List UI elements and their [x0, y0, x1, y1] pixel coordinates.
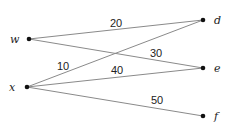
weight-w-d: 20 [110, 17, 122, 29]
weight-x-f: 50 [151, 94, 163, 106]
weight-w-e: 30 [150, 47, 162, 59]
node-d [201, 18, 206, 23]
node-label-f: f [213, 110, 220, 123]
node-w [27, 37, 32, 42]
weight-x-e: 40 [111, 64, 123, 76]
node-label-w: w [10, 33, 20, 46]
node-f [201, 114, 206, 119]
node-x [25, 85, 30, 90]
node-e [201, 66, 206, 71]
graph-diagram: 20 30 10 40 50 w x d e f [0, 0, 228, 128]
weight-x-d: 10 [57, 60, 69, 72]
node-label-x: x [9, 81, 16, 94]
node-label-e: e [214, 62, 221, 75]
edge-x-f [27, 87, 203, 116]
node-label-d: d [214, 14, 221, 27]
